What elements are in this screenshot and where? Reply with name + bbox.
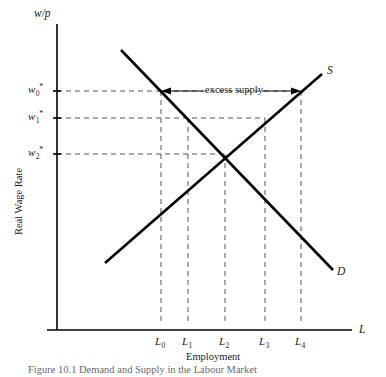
excess-supply-label: excess supply [205, 85, 263, 96]
x-tick-label-L1: L1 [182, 336, 192, 347]
x-tick-label-L3: L3 [259, 336, 269, 347]
x-tick-label-L2: L2 [219, 336, 229, 347]
y-tick-label-w1: w1* [28, 111, 43, 122]
x-axis-title: Employment [186, 352, 240, 363]
labour-market-figure: w/p L S D excess supply w0* w1* w2* L0 L… [0, 0, 386, 377]
labour-supply-curve [105, 74, 322, 263]
figure-caption: Figure 10.1 Demand and Supply in the Lab… [28, 364, 257, 375]
y-axis-title: Real Wage Rate [13, 154, 24, 250]
labour-demand-curve [121, 50, 333, 270]
y-tick-label-w2: w2* [28, 147, 43, 158]
x-tick-label-L0: L0 [155, 336, 165, 347]
demand-curve-label: D [337, 266, 345, 278]
x-axis-symbol: L [359, 324, 365, 336]
x-tick-label-L4: L4 [295, 336, 305, 347]
supply-curve-label: S [327, 65, 333, 77]
plot-canvas [0, 0, 386, 377]
y-tick-label-w0: w0* [28, 84, 43, 95]
y-axis-symbol: w/p [34, 8, 51, 20]
